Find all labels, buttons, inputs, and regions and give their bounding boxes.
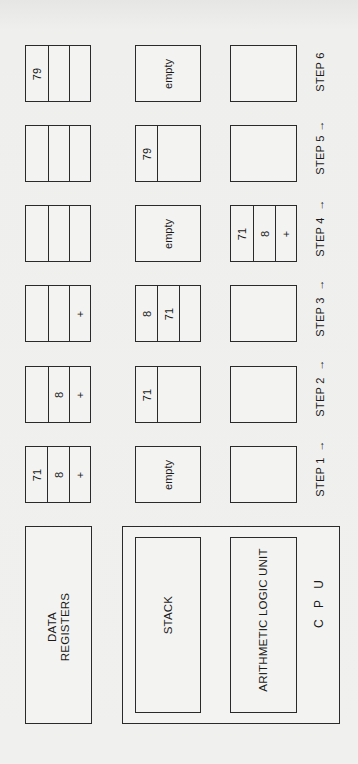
- step1-stack: empty: [135, 446, 201, 503]
- stack-slot: 79: [136, 126, 157, 181]
- stack-empty-label: empty: [163, 460, 174, 490]
- step3-alu: [230, 285, 297, 342]
- register-slot: 8: [48, 367, 69, 422]
- register-slot: [69, 206, 90, 261]
- step4-alu: 71 8 +: [230, 205, 297, 262]
- step6-registers: 79: [25, 45, 91, 102]
- stack-slot: 8: [136, 286, 157, 341]
- data-registers-label: DATA REGISTERS: [46, 593, 71, 661]
- step5-stack: 79: [135, 125, 201, 182]
- step5-to-step6-arrow: →: [314, 121, 326, 132]
- stack-value: 79: [141, 147, 152, 159]
- register-slot: [69, 126, 90, 181]
- register-slot: [26, 206, 48, 261]
- step4-stack: empty: [135, 205, 201, 262]
- diagram-page: 79 empty STEP 6 79 STEP 5 → empty 71 8 +…: [0, 0, 358, 764]
- step4-to-step5-arrow: →: [314, 200, 326, 211]
- register-slot: [48, 126, 69, 181]
- stack-slot: [157, 367, 200, 422]
- step3-to-step4-arrow: →: [314, 280, 326, 291]
- register-value: +: [75, 391, 86, 397]
- register-slot: +: [69, 286, 90, 341]
- register-slot: [48, 206, 69, 261]
- alu-slot: +: [275, 206, 296, 261]
- register-value: 79: [32, 67, 43, 79]
- stack-box: STACK: [135, 537, 201, 713]
- step3-label: STEP 3: [314, 297, 326, 337]
- register-slot: [26, 367, 48, 422]
- register-value: 8: [53, 471, 64, 477]
- register-slot: +: [69, 367, 90, 422]
- stack-slot: [179, 286, 200, 341]
- register-slot: 71: [26, 447, 47, 502]
- step5-label: STEP 5: [314, 135, 326, 175]
- step3-registers: +: [25, 285, 91, 342]
- alu-value: +: [281, 230, 292, 236]
- step2-stack: 71: [135, 366, 201, 423]
- stack-label: STACK: [162, 596, 175, 635]
- alu-value: 71: [237, 227, 248, 239]
- register-slot: +: [69, 447, 90, 502]
- step1-alu: [230, 446, 297, 503]
- step2-label: STEP 2: [314, 377, 326, 417]
- register-slot: 79: [26, 46, 48, 101]
- stack-value: 8: [141, 310, 152, 316]
- stack-value: 71: [163, 307, 174, 319]
- stack-slot: 71: [157, 286, 179, 341]
- alu-box: ARITHMETIC LOGIC UNIT: [230, 537, 297, 713]
- step4-label: STEP 4: [314, 217, 326, 257]
- stack-slot: [157, 126, 200, 181]
- step2-alu: [230, 366, 297, 423]
- register-slot: [48, 46, 69, 101]
- step5-registers: [25, 125, 91, 182]
- step6-alu: [230, 45, 297, 102]
- register-slot: 8: [47, 447, 69, 502]
- data-registers-label-line1: DATA: [46, 612, 58, 642]
- cpu-label: C P U: [313, 576, 326, 628]
- stack-value: 71: [141, 388, 152, 400]
- step6-stack: empty: [135, 45, 201, 102]
- stack-empty-label: empty: [163, 219, 174, 249]
- data-registers-box: DATA REGISTERS: [25, 526, 92, 724]
- register-value: 8: [54, 391, 65, 397]
- register-value: 71: [31, 468, 42, 480]
- step4-registers: [25, 205, 91, 262]
- step6-label: STEP 6: [314, 52, 326, 92]
- alu-value: 8: [259, 230, 270, 236]
- register-value: +: [75, 471, 86, 477]
- step3-stack: 8 71: [135, 285, 201, 342]
- alu-slot: 71: [231, 206, 253, 261]
- cpu-box: STACK ARITHMETIC LOGIC UNIT C P U: [122, 526, 340, 724]
- step1-registers: 71 8 +: [25, 446, 91, 503]
- alu-slot: 8: [253, 206, 275, 261]
- step1-label: STEP 1: [314, 457, 326, 497]
- step1-to-step2-arrow: →: [314, 441, 326, 452]
- step5-alu: [230, 125, 297, 182]
- step2-registers: 8 +: [25, 366, 91, 423]
- register-slot: [48, 286, 69, 341]
- register-slot: [69, 46, 90, 101]
- data-registers-label-line2: REGISTERS: [59, 593, 71, 661]
- stack-slot: 71: [136, 367, 157, 422]
- register-slot: [26, 286, 48, 341]
- step2-to-step3-arrow: →: [314, 360, 326, 371]
- register-value: +: [75, 310, 86, 316]
- alu-label: ARITHMETIC LOGIC UNIT: [257, 548, 270, 691]
- stack-empty-label: empty: [163, 59, 174, 89]
- register-slot: [26, 126, 48, 181]
